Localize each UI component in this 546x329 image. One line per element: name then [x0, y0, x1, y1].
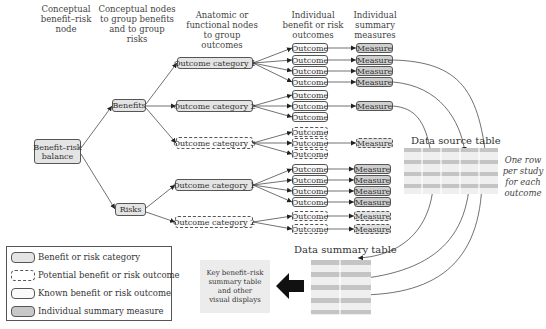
outcome-label: Outcome: [292, 113, 329, 122]
key-box-line: and other: [206, 287, 263, 296]
outcome-label: Outcome: [292, 150, 329, 159]
note-line: per study: [500, 166, 546, 177]
outcome-label: Outcome: [292, 102, 329, 111]
legend-item-measure: Individual summary measure: [11, 304, 164, 318]
measure-label: Measure: [357, 44, 393, 53]
benefit-outcome-category-1: Outcome category 1: [177, 57, 253, 69]
note-line: outcome: [500, 188, 546, 199]
measure-node: Measure: [354, 164, 391, 174]
outcome-node: Outcome: [292, 101, 328, 111]
data-source-table-note: One row per study for each outcome: [500, 155, 546, 199]
legend-label: Benefit or risk category: [38, 252, 140, 262]
potential-measure-node: Measure: [356, 138, 393, 148]
measure-node: Measure: [356, 66, 393, 76]
measure-label: Measure: [355, 225, 391, 234]
outcome-label: Outcome: [292, 128, 329, 137]
category-label: Outcome category 1: [173, 181, 255, 190]
root-label: Benefit–risk: [33, 143, 81, 152]
measure-node: Measure: [356, 55, 393, 65]
category-label: Outcome category 2: [173, 102, 255, 111]
benefit-risk-balance-node: Benefit–risk balance: [34, 139, 81, 164]
key-box-line: summary table: [206, 278, 263, 287]
potential-measure-node: Measure: [354, 211, 391, 221]
outcome-node: Outcome: [292, 77, 328, 87]
outcome-node: Outcome: [292, 90, 328, 100]
potential-outcome-node: Outcome: [292, 211, 328, 221]
measure-label: Measure: [355, 198, 391, 207]
outcome-node: Outcome: [292, 55, 328, 65]
risk-outcome-category-2: Outcome category 2: [175, 216, 253, 228]
measure-node: Measure: [354, 175, 391, 185]
outcome-node: Outcome: [292, 43, 328, 53]
benefits-node: Benefits: [112, 99, 146, 112]
measure-node: Measure: [356, 43, 393, 53]
risks-label: Risks: [120, 205, 142, 214]
measure-label: Measure: [357, 78, 393, 87]
legend-item-known: Known benefit or risk outcome: [11, 286, 171, 300]
benefit-outcome-category-3: Outcome category 3: [176, 137, 253, 149]
legend-label: Individual summary measure: [38, 306, 164, 316]
data-source-table: [404, 148, 498, 194]
note-line: for each: [500, 177, 546, 188]
outcome-label: Outcome: [292, 56, 329, 65]
outcome-label: Outcome: [292, 139, 329, 148]
risks-node: Risks: [115, 203, 146, 216]
outcome-node: Outcome: [292, 186, 328, 196]
potential-measure-node: Measure: [354, 224, 391, 234]
measure-label: Measure: [357, 139, 393, 148]
outcome-label: Outcome: [292, 176, 329, 185]
data-source-table-title: Data source table: [411, 135, 501, 146]
measure-label: Measure: [357, 67, 393, 76]
measure-label: Measure: [355, 212, 391, 221]
measure-label: Measure: [355, 165, 391, 174]
category-label: Outcome category 3: [173, 139, 255, 148]
outcome-label: Outcome: [292, 198, 329, 207]
outcome-label: Outcome: [292, 67, 329, 76]
potential-outcome-node: Outcome: [292, 127, 328, 137]
legend: Benefit or risk category Potential benef…: [6, 246, 172, 321]
data-summary-table-title: Data summary table: [294, 244, 397, 255]
key-box-line: Key benefit–risk: [206, 269, 263, 278]
outcome-node: Outcome: [292, 164, 328, 174]
measure-label: Measure: [355, 176, 391, 185]
outcome-label: Outcome: [292, 212, 329, 221]
category-label: Outcome category 2: [173, 218, 255, 227]
legend-label: Potential benefit or risk outcome: [38, 270, 180, 280]
risk-outcome-category-1: Outcome category 1: [175, 179, 253, 191]
category-swatch-icon: [11, 252, 35, 263]
outcome-label: Outcome: [292, 165, 329, 174]
key-box-line: visual displays: [206, 296, 263, 305]
outcome-label: Outcome: [292, 91, 329, 100]
potential-outcome-node: Outcome: [292, 138, 328, 148]
legend-item-potential: Potential benefit or risk outcome: [11, 268, 180, 282]
known-swatch-icon: [11, 288, 35, 299]
benefit-outcome-category-2: Outcome category 2: [176, 100, 253, 112]
legend-item-category: Benefit or risk category: [11, 250, 140, 264]
potential-swatch-icon: [11, 270, 35, 281]
measure-label: Measure: [355, 187, 391, 196]
legend-label: Known benefit or risk outcome: [38, 288, 171, 298]
potential-outcome-node: Outcome: [292, 224, 328, 234]
outcome-node: Outcome: [292, 197, 328, 207]
measure-node: Measure: [356, 77, 393, 87]
measure-swatch-icon: [11, 306, 35, 317]
note-line: One row: [500, 155, 546, 166]
outcome-node: Outcome: [292, 66, 328, 76]
potential-outcome-node: Outcome: [292, 149, 328, 159]
outcome-label: Outcome: [292, 225, 329, 234]
measure-node: Measure: [356, 101, 393, 111]
outcome-label: Outcome: [292, 44, 329, 53]
measure-label: Measure: [357, 56, 393, 65]
big-left-arrow-icon: [276, 273, 304, 299]
outcome-node: Outcome: [292, 175, 328, 185]
category-label: Outcome category 1: [174, 59, 256, 68]
root-label: balance: [42, 152, 74, 161]
key-benefit-risk-summary-box: Key benefit–risk summary table and other…: [200, 260, 270, 313]
outcome-label: Outcome: [292, 187, 329, 196]
measure-label: Measure: [357, 102, 393, 111]
measure-node: Measure: [354, 186, 391, 196]
benefits-label: Benefits: [112, 101, 145, 110]
data-summary-table: [311, 260, 371, 315]
outcome-label: Outcome: [292, 78, 329, 87]
outcome-node: Outcome: [292, 112, 328, 122]
